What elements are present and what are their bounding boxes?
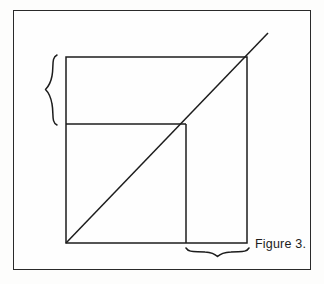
- left-brace-icon: [46, 55, 58, 125]
- figure-caption: Figure 3.: [255, 237, 306, 251]
- bottom-brace-icon: [186, 248, 249, 257]
- diagonal-line: [66, 33, 268, 243]
- figure-screenshot: Figure 3.: [0, 0, 324, 284]
